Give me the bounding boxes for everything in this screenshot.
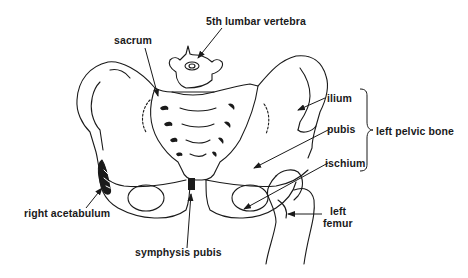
label-left-femur-line2: femur [323, 217, 353, 229]
right-ilium [77, 62, 155, 170]
pubic-region [100, 170, 308, 218]
label-ilium: ilium [327, 92, 352, 104]
right-acetabulum [98, 160, 110, 194]
label-pubis: pubis [327, 123, 356, 135]
sacrum [151, 84, 258, 180]
label-left-femur-line1: left [330, 205, 346, 217]
symphysis-pubis [188, 178, 195, 190]
pelvis-diagram [0, 0, 468, 278]
label-5th-lumbar-vertebra: 5th lumbar vertebra [206, 15, 306, 27]
label-ischium: ischium [325, 157, 365, 169]
label-right-acetabulum: right acetabulum [24, 207, 110, 219]
left-ilium [258, 56, 328, 158]
label-symphysis-pubis: symphysis pubis [135, 246, 222, 258]
label-left-pelvic-bone: left pelvic bone [376, 125, 454, 137]
label-sacrum: sacrum [114, 34, 152, 46]
lumbar-vertebra [169, 46, 222, 95]
